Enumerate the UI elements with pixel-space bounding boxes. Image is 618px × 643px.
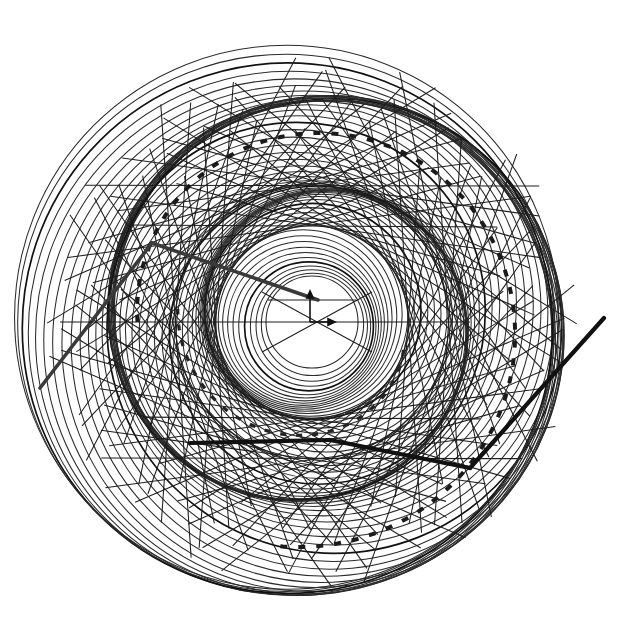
figure-root: [0, 0, 618, 643]
lattice-chord: [101, 458, 522, 459]
lattice-chord: [85, 185, 539, 186]
spiral-vortex-figure: [0, 0, 618, 643]
thick-chord: [190, 440, 330, 443]
